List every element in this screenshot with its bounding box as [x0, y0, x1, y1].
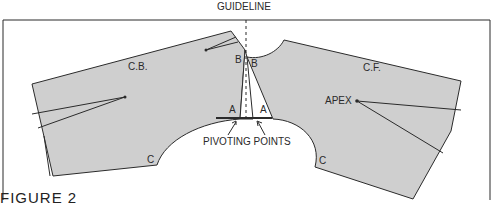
back-dart-point	[124, 96, 127, 99]
pivot-arrow-left	[228, 122, 236, 135]
shoulder-dart-point	[205, 49, 208, 52]
c-left-label: C	[147, 155, 154, 165]
b-right-label: B	[251, 59, 258, 69]
pivoting-points-label: PIVOTING POINTS	[203, 137, 291, 147]
guideline-label: GUIDELINE	[217, 2, 271, 12]
pivot-arrow-right	[258, 122, 265, 135]
apex-label: APEX	[325, 96, 352, 106]
a-left-label: A	[229, 105, 236, 115]
front-pattern-piece	[247, 40, 461, 199]
a-right-label: A	[260, 105, 267, 115]
apex-point	[355, 99, 359, 103]
cb-label: C.B.	[128, 62, 147, 72]
pattern-diagram	[0, 0, 491, 207]
c-right-label: C	[319, 156, 326, 166]
back-pattern-piece	[32, 31, 245, 176]
b-left-label: B	[235, 55, 242, 65]
figure-caption: FIGURE 2	[0, 189, 77, 206]
cf-label: C.F.	[363, 63, 381, 73]
